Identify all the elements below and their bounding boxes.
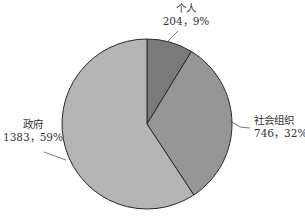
leader-line-zhengfu: [44, 152, 66, 160]
label-geren: 个人 204，9%: [163, 2, 210, 28]
label-shehui: 社会组织 746，32%: [254, 114, 305, 140]
label-zhengfu-value: 1383，59%: [3, 131, 63, 144]
label-zhengfu: 政府 1383，59%: [3, 118, 63, 144]
label-geren-value: 204，9%: [163, 15, 210, 28]
label-zhengfu-name: 政府: [3, 118, 63, 131]
leader-line-geren: [167, 31, 178, 42]
pie-chart: [0, 0, 305, 216]
label-shehui-value: 746，32%: [254, 127, 305, 140]
label-shehui-name: 社会组织: [254, 114, 305, 127]
label-geren-name: 个人: [163, 2, 210, 15]
leader-line-shehui: [230, 121, 250, 128]
pie-slices: [62, 39, 232, 209]
